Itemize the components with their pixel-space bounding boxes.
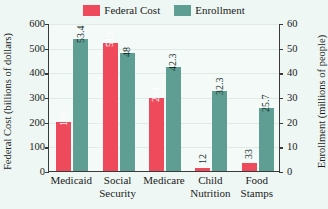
bar-group: 51948 — [95, 24, 141, 171]
y-axis-left-tick-label: 600 — [19, 19, 45, 29]
y-axis-left-tick-label: 400 — [19, 68, 45, 78]
bar-federal-cost: 198 — [56, 122, 71, 171]
y-axis-right-tick-label: 50 — [287, 44, 313, 54]
y-axis-right-tick-label: 20 — [287, 118, 313, 128]
y-axis-right-tick — [279, 172, 283, 173]
x-axis-category-label-line: Medicare — [141, 174, 187, 187]
bar-enrollment: 48 — [120, 53, 135, 171]
y-axis-left-tick-label: 300 — [19, 93, 45, 103]
bar-group: 1232.3 — [188, 24, 234, 171]
legend-swatch-enrollment — [174, 5, 191, 16]
y-axis-right-tick-label: 0 — [287, 167, 313, 177]
y-axis-right-tick-label: 60 — [287, 19, 313, 29]
bar-value-label-federal-cost: 33 — [244, 149, 254, 159]
bar-federal-cost: 12 — [195, 168, 210, 171]
bar-value-label-enrollment: 42.3 — [168, 53, 178, 71]
x-axis-category-label-line: Security — [94, 187, 140, 200]
y-axis-title-right: Enrollment (millions of people) — [316, 27, 327, 177]
y-axis-left-tick — [45, 172, 49, 173]
x-axis-category-label-line: Child — [187, 174, 233, 187]
x-axis-category-labels: MedicaidSocialSecurityMedicareChildNutri… — [48, 174, 280, 208]
x-axis-category-label: SocialSecurity — [94, 174, 140, 199]
bar-enrollment: 53.4 — [73, 39, 88, 171]
bar-value-label-enrollment: 32.3 — [215, 78, 225, 96]
bar-group: 19853.4 — [49, 24, 95, 171]
bar-chart: Federal Cost Enrollment Federal Cost (bi… — [0, 0, 328, 209]
y-axis-left-tick-label: 200 — [19, 118, 45, 128]
legend-swatch-federal-cost — [83, 5, 100, 16]
bar-value-label-federal-cost: 198 — [59, 111, 69, 126]
x-axis-category-label-line: Medicaid — [48, 174, 94, 187]
x-axis-category-label: FoodStamps — [234, 174, 280, 199]
bar-value-label-enrollment: 25.7 — [261, 94, 271, 112]
x-axis-category-label-line: Social — [94, 174, 140, 187]
y-axis-right-tick-label: 40 — [287, 68, 313, 78]
legend-label-enrollment: Enrollment — [195, 5, 245, 16]
bar-federal-cost: 33 — [242, 163, 257, 171]
x-axis-category-label-line: Food — [234, 174, 280, 187]
x-axis-category-label-line: Nutrition — [187, 187, 233, 200]
bar-federal-cost: 294 — [149, 98, 164, 171]
legend-item-federal-cost: Federal Cost — [83, 5, 160, 16]
y-axis-left-tick-label: 500 — [19, 44, 45, 54]
y-axis-left-tick-label: 0 — [19, 167, 45, 177]
bar-group: 3325.7 — [235, 24, 281, 171]
plot-area: 19853.45194829442.31232.33325.7 — [48, 24, 280, 172]
legend-item-enrollment: Enrollment — [174, 5, 245, 16]
bar-value-label-federal-cost: 12 — [198, 154, 208, 164]
y-axis-right-tick-label: 10 — [287, 142, 313, 152]
y-axis-right-tick-label: 30 — [287, 93, 313, 103]
bar-value-label-enrollment: 53.4 — [76, 26, 86, 44]
x-axis-category-label-line: Stamps — [234, 187, 280, 200]
bar-groups: 19853.45194829442.31232.33325.7 — [49, 24, 279, 171]
chart-legend: Federal Cost Enrollment — [0, 2, 328, 18]
legend-label-federal-cost: Federal Cost — [104, 5, 160, 16]
x-axis-category-label: ChildNutrition — [187, 174, 233, 199]
y-axis-left-tick-label: 100 — [19, 142, 45, 152]
bar-enrollment: 25.7 — [259, 108, 274, 171]
y-axis-title-left: Federal Cost (billions of dollars) — [2, 27, 13, 177]
bar-value-label-federal-cost: 519 — [105, 32, 115, 47]
bar-value-label-federal-cost: 294 — [151, 87, 161, 102]
bar-enrollment: 32.3 — [212, 91, 227, 171]
bar-enrollment: 42.3 — [166, 67, 181, 171]
bar-federal-cost: 519 — [103, 43, 118, 171]
x-axis-category-label: Medicare — [141, 174, 187, 187]
bar-group: 29442.3 — [142, 24, 188, 171]
x-axis-category-label: Medicaid — [48, 174, 94, 187]
bar-value-label-enrollment: 48 — [122, 47, 132, 57]
